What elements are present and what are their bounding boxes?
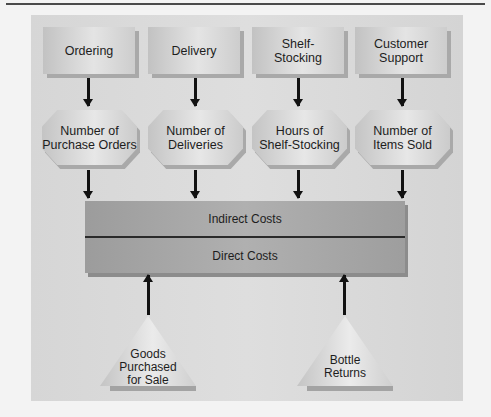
arrow-down-icon [87, 170, 90, 198]
arrow-up-icon [147, 275, 150, 315]
input-label: Goods Purchased for Sale [103, 348, 193, 387]
indirect-costs: Indirect Costs [85, 201, 405, 236]
driver-deliveries: Number of Deliveries [148, 110, 243, 165]
arrow-down-icon [194, 78, 197, 106]
arrow-down-icon [194, 170, 197, 198]
activity-label: Customer Support [374, 37, 428, 65]
activity-label: Delivery [171, 44, 216, 58]
driver-purchase-orders: Number of Purchase Orders [42, 110, 137, 165]
driver-label: Number of Deliveries [166, 124, 224, 152]
arrow-down-icon [297, 170, 300, 198]
driver-label: Hours of Shelf-Stocking [259, 124, 340, 152]
activity-customer-support: Customer Support [355, 27, 447, 74]
driver-items-sold: Number of Items Sold [355, 110, 450, 165]
input-label: Bottle Returns [300, 354, 390, 380]
activity-ordering: Ordering [43, 27, 135, 74]
driver-label: Number of Items Sold [373, 124, 432, 152]
activity-label: Ordering [65, 44, 114, 58]
activity-delivery: Delivery [148, 27, 240, 74]
arrow-down-icon [297, 78, 300, 106]
input-shadow [307, 386, 393, 391]
arrow-up-icon [343, 275, 346, 315]
header-rule [6, 3, 485, 5]
direct-costs: Direct Costs [85, 238, 405, 273]
driver-shelf-stocking-hours: Hours of Shelf-Stocking [252, 110, 347, 165]
activity-label: Shelf- Stocking [274, 37, 322, 65]
arrow-down-icon [401, 170, 404, 198]
arrow-down-icon [401, 78, 404, 106]
activity-shelf-stocking: Shelf- Stocking [252, 27, 344, 74]
driver-label: Number of Purchase Orders [42, 124, 136, 152]
arrow-down-icon [87, 78, 90, 106]
cost-bar: Indirect Costs Direct Costs [85, 201, 405, 273]
